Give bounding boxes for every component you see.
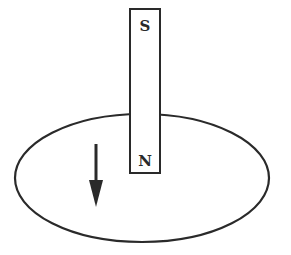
magnet-loop-diagram: S N — [0, 0, 291, 255]
south-pole-label: S — [140, 17, 151, 35]
down-arrow-icon — [89, 144, 103, 207]
bar-magnet: S N — [130, 9, 160, 173]
north-pole-label: N — [138, 152, 152, 170]
